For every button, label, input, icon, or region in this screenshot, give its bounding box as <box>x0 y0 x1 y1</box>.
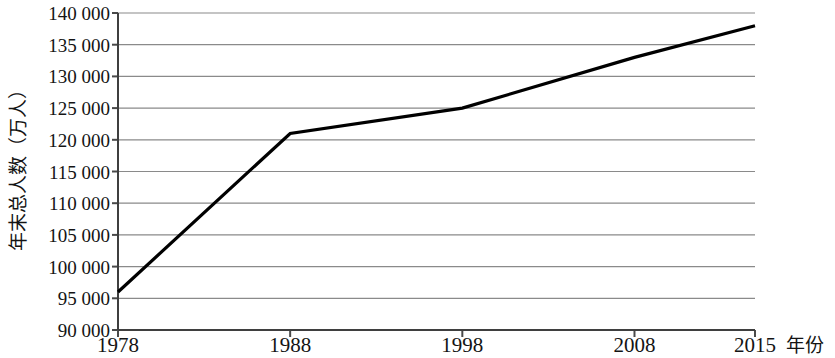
y-tick-label: 140 000 <box>28 4 110 23</box>
x-tick-marks-group <box>118 330 755 337</box>
y-tick-label: 120 000 <box>28 130 110 149</box>
x-tick-label: 1988 <box>269 335 311 356</box>
line-chart-figure: 年末总人数（万人） 140 000135 000130 000125 00012… <box>0 0 835 358</box>
gridlines-group <box>118 13 755 298</box>
x-tick-label: 1978 <box>97 335 139 356</box>
y-tick-label: 135 000 <box>28 35 110 54</box>
data-series-line <box>118 26 755 292</box>
y-axis-tick-labels: 140 000135 000130 000125 000120 000115 0… <box>28 0 110 358</box>
y-tick-label: 115 000 <box>28 162 110 181</box>
y-axis-title-text: 年末总人数（万人） <box>3 80 30 251</box>
y-tick-label: 125 000 <box>28 99 110 118</box>
x-tick-label: 2008 <box>613 335 655 356</box>
y-tick-label: 130 000 <box>28 67 110 86</box>
x-axis-title: 年份 <box>786 336 824 355</box>
y-tick-label: 105 000 <box>28 225 110 244</box>
x-tick-label: 2015 <box>734 335 776 356</box>
plot-area <box>118 13 755 330</box>
y-tick-label: 110 000 <box>28 194 110 213</box>
plot-svg <box>118 13 755 330</box>
x-tick-label: 1998 <box>441 335 483 356</box>
y-tick-label: 100 000 <box>28 257 110 276</box>
y-tick-label: 95 000 <box>28 289 110 308</box>
